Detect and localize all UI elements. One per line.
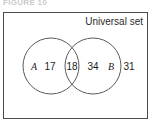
venn-diagram-figure: FIGURE 10 Universal set A 17 18 34 B 31: [0, 0, 155, 130]
venn-circles: A 17 18 34 B 31: [0, 0, 155, 130]
outside-count: 31: [123, 61, 135, 72]
set-a-only-count: 17: [44, 61, 56, 72]
intersection-count: 18: [66, 61, 78, 72]
set-b-only-count: 34: [87, 61, 99, 72]
set-b-label: B: [108, 61, 114, 72]
set-a-label: A: [30, 61, 38, 72]
